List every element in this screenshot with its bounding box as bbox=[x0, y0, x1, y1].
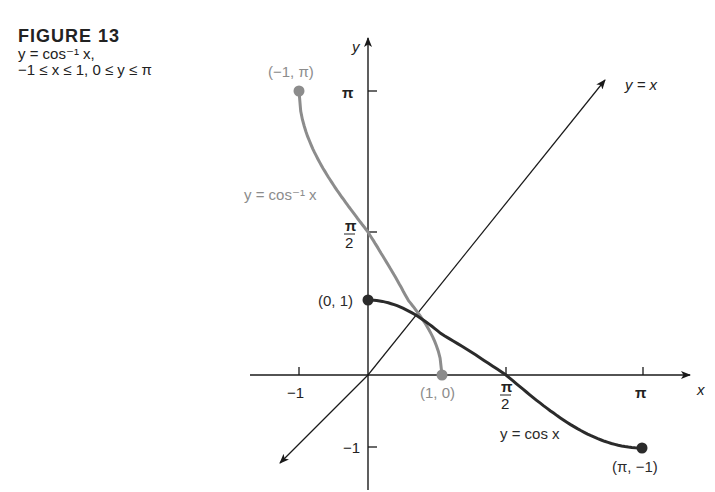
point-pi-neg1-label: (π, −1) bbox=[612, 458, 658, 475]
y-tick-half-pi-label: π 2 bbox=[344, 217, 357, 251]
plot-area: y x y = x y = cos⁻¹ x y = cos x (−1, π) … bbox=[0, 0, 715, 492]
y-equals-x-label: y = x bbox=[624, 76, 658, 93]
svg-text:π: π bbox=[501, 378, 513, 395]
point-pi-neg1 bbox=[637, 443, 648, 454]
point-0-1 bbox=[363, 295, 374, 306]
svg-text:π: π bbox=[345, 217, 357, 234]
y-equals-x-line bbox=[368, 80, 605, 375]
point-1-0-label: (1, 0) bbox=[420, 384, 455, 401]
point-neg1-pi-label: (−1, π) bbox=[268, 63, 314, 80]
point-0-1-label: (0, 1) bbox=[318, 292, 353, 309]
y-tick-neg1-label: −1 bbox=[343, 439, 360, 456]
axis-ticks bbox=[299, 91, 643, 447]
inverse-cosine-curve bbox=[299, 91, 442, 375]
y-axis-label: y bbox=[351, 38, 361, 55]
inverse-curve-label: y = cos⁻¹ x bbox=[244, 186, 317, 203]
svg-text:2: 2 bbox=[345, 234, 353, 251]
svg-text:2: 2 bbox=[501, 395, 509, 412]
y-tick-pi-label: π bbox=[342, 84, 354, 101]
x-tick-neg1-label: −1 bbox=[287, 384, 304, 401]
point-1-0 bbox=[437, 370, 448, 381]
point-neg1-pi bbox=[294, 86, 305, 97]
x-tick-half-pi-label: π 2 bbox=[500, 378, 513, 412]
cos-curve-label: y = cos x bbox=[500, 425, 560, 442]
x-axis-label: x bbox=[696, 381, 705, 398]
x-tick-pi-label: π bbox=[635, 384, 647, 401]
